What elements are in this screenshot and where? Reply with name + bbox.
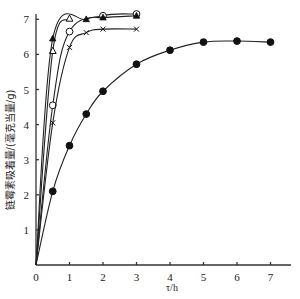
- plot-series: [36, 11, 274, 265]
- x-tick-label: 5: [201, 271, 207, 283]
- filled-circle-marker-icon: [267, 39, 274, 46]
- x-tick-label: 1: [67, 271, 73, 283]
- y-tick-label: 2: [24, 189, 30, 201]
- y-axis-title: 链霉素吸着量/(毫克当量/g): [4, 89, 16, 210]
- open-circle-marker-icon: [66, 28, 73, 35]
- y-tick-label: 4: [24, 119, 30, 131]
- series-filled-circle: [36, 38, 274, 265]
- y-tick-label: 7: [24, 13, 30, 25]
- cross-marker-icon: [84, 30, 89, 35]
- filled-circle-marker-icon: [167, 47, 174, 54]
- cross-marker-icon: [67, 45, 72, 50]
- y-axis: 1234567: [24, 13, 40, 265]
- x-tick-label: 7: [268, 271, 274, 283]
- filled-circle-marker-icon: [234, 38, 241, 45]
- x-tick-label: 6: [234, 271, 240, 283]
- x-tick-label: 2: [100, 271, 106, 283]
- y-tick-label: 6: [24, 48, 30, 60]
- y-tick-label: 5: [24, 84, 30, 96]
- x-tick-label: 0: [33, 271, 39, 283]
- x-axis-title: τ/h: [166, 282, 178, 293]
- open-triangle-marker-icon: [66, 15, 73, 21]
- y-tick-label: 1: [24, 224, 30, 236]
- filled-circle-marker-icon: [66, 142, 73, 149]
- filled-circle-marker-icon: [200, 39, 207, 46]
- y-tick-label: 3: [24, 154, 30, 166]
- x-tick-label: 3: [134, 271, 140, 283]
- filled-circle-marker-icon: [133, 61, 140, 68]
- filled-circle-marker-icon: [49, 188, 56, 195]
- filled-circle-marker-icon: [83, 111, 90, 118]
- x-axis: 01234567: [33, 262, 291, 283]
- filled-circle-marker-icon: [100, 88, 107, 95]
- series-line: [36, 41, 271, 265]
- series-line: [36, 14, 137, 265]
- series-line: [36, 19, 70, 265]
- adsorption-chart: 1234567 01234567 链霉素吸着量/(毫克当量/g) τ/h: [0, 0, 300, 299]
